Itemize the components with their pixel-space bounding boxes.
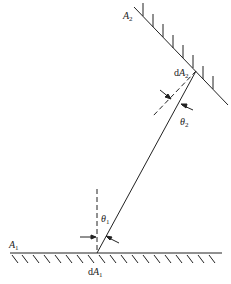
- surface-a1-hatching: [12, 255, 215, 263]
- theta1-right-arrow-icon: [106, 236, 119, 243]
- label-da1: dA1: [88, 267, 103, 279]
- label-da2: dA2: [174, 68, 189, 80]
- label-a1: A1: [9, 240, 19, 252]
- diagram-graphic: [0, 0, 231, 284]
- label-a2: A2: [123, 11, 133, 23]
- view-factor-diagram: A2 dA2 θ2 θ1 A1 dA1: [0, 0, 231, 284]
- theta2-left-arrow-icon: [160, 90, 171, 99]
- ray-line: [97, 71, 196, 253]
- theta2-right-arrow-icon: [181, 104, 193, 110]
- label-theta2: θ2: [180, 117, 188, 129]
- theta1-left-arrow-icon: [80, 235, 96, 239]
- surface-a2-line: [134, 7, 228, 105]
- label-theta1: θ1: [101, 214, 109, 226]
